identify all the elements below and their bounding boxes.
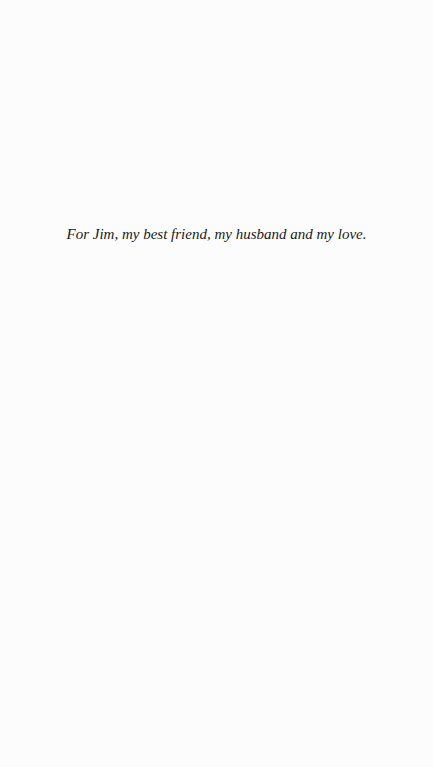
book-page: For Jim, my best friend, my husband and …: [0, 0, 433, 767]
dedication-text: For Jim, my best friend, my husband and …: [0, 224, 433, 244]
